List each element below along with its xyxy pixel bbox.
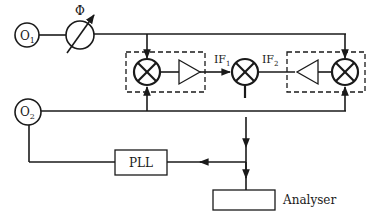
middle-mixer-icon (232, 59, 258, 85)
pll-label: PLL (129, 156, 153, 170)
analyser-box (213, 190, 275, 210)
left-mixer-icon (134, 59, 160, 85)
analyser-label: Analyser (282, 193, 336, 207)
phase-label: Φ (75, 4, 85, 18)
block-diagram: O1 Φ IF1 IF2 O2 PLL Analyser (0, 0, 373, 218)
if2-label: IF2 (262, 53, 278, 68)
right-mixer-icon (332, 59, 358, 85)
left-amplifier-icon (179, 60, 200, 84)
if1-label: IF1 (214, 53, 230, 68)
phase-shifter-icon (66, 15, 94, 53)
right-amplifier-icon (297, 60, 318, 84)
